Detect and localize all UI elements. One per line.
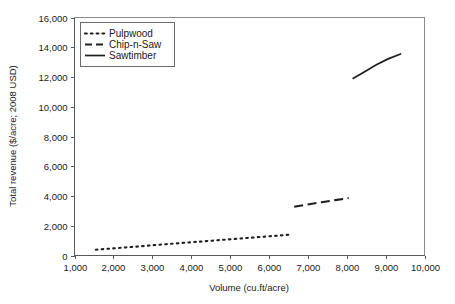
x-axis-ticks (76, 256, 426, 260)
series-line-pulpwood (96, 234, 292, 249)
legend-label-sawtimber: Sawtimber (109, 50, 157, 61)
chart-container: 02,0004,0006,0008,00010,00012,00014,0001… (0, 0, 455, 304)
y-axis-title: Total revenue ($/acre; 2008 USD) (7, 65, 18, 207)
chart-legend: Pulpwood Chip-n-Saw Sawtimber (81, 23, 175, 67)
x-tick-label: 7,000 (297, 262, 321, 273)
y-tick-label: 8,000 (44, 132, 68, 143)
x-tick-label: 8,000 (336, 262, 360, 273)
x-tick-label: 1,000 (64, 262, 88, 273)
x-tick-label: 4,000 (180, 262, 204, 273)
legend-label-chip-n-saw: Chip-n-Saw (109, 39, 162, 50)
x-tick-label: 10,000 (411, 262, 440, 273)
y-axis-tick-labels: 02,0004,0006,0008,00010,00012,00014,0001… (38, 13, 67, 262)
y-tick-label: 2,000 (44, 221, 68, 232)
x-tick-label: 6,000 (258, 262, 282, 273)
y-axis-ticks (71, 19, 75, 257)
x-axis-title: Volume (cu.ft/acre) (209, 282, 289, 293)
series-line-chip-n-saw (294, 198, 348, 207)
y-tick-label: 14,000 (38, 42, 67, 53)
x-tick-label: 3,000 (141, 262, 165, 273)
legend-label-pulpwood: Pulpwood (109, 28, 153, 39)
y-tick-label: 0 (62, 251, 67, 262)
y-tick-label: 16,000 (38, 13, 67, 24)
series-line-sawtimber (353, 54, 402, 79)
x-tick-label: 9,000 (375, 262, 399, 273)
y-tick-label: 6,000 (44, 161, 68, 172)
y-tick-label: 4,000 (44, 191, 68, 202)
y-tick-label: 10,000 (38, 102, 67, 113)
x-tick-label: 5,000 (219, 262, 243, 273)
y-tick-label: 12,000 (38, 72, 67, 83)
x-tick-label: 2,000 (102, 262, 126, 273)
revenue-volume-line-chart: 02,0004,0006,0008,00010,00012,00014,0001… (0, 0, 455, 304)
x-axis-tick-labels: 1,0002,0003,0004,0005,0006,0007,0008,000… (64, 262, 440, 273)
